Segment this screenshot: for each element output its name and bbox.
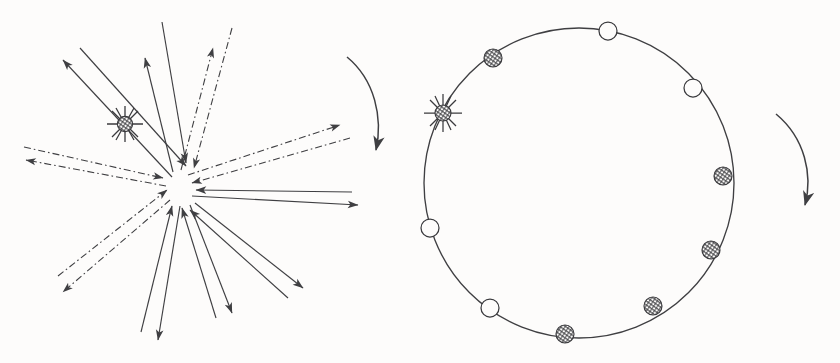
ring-circle [424, 28, 734, 338]
arrow-outward-0 [63, 60, 172, 177]
marker-open-circle-3 [421, 219, 439, 237]
marker-hatched-circle-8 [714, 167, 732, 185]
marker-hatched-circle-6 [644, 297, 662, 315]
rotation-arrow-left [347, 57, 378, 150]
arrow-outward-5 [195, 203, 303, 288]
marker-hatched-circle-7 [702, 241, 720, 259]
arrow-outward-3 [188, 125, 340, 175]
arrow-inward-0 [80, 48, 186, 166]
star-core-hatched [117, 116, 132, 131]
marker-open-circle-4 [481, 299, 499, 317]
arrow-outward-7 [158, 206, 180, 340]
arrow-pair-8 [58, 190, 170, 292]
arrow-inward-8 [58, 190, 167, 276]
figure-canvas [0, 0, 840, 363]
arrow-pair-3 [188, 125, 350, 183]
figure-root [0, 0, 840, 363]
arrow-inward-7 [141, 206, 172, 332]
arrow-pair-9 [24, 147, 166, 186]
arrow-outward-6 [190, 205, 232, 313]
star-core-hatched [435, 105, 451, 121]
arrow-outward-1 [145, 58, 173, 172]
star-marker-left-panel [107, 106, 143, 142]
arrow-inward-3 [192, 138, 350, 183]
marker-open-circle-0 [599, 22, 617, 40]
arrow-pair-4 [192, 190, 358, 205]
arrow-outward-2 [181, 48, 213, 170]
right-panel-circle-ring [421, 22, 808, 343]
arrow-pair-2 [181, 28, 232, 170]
marker-hatched-circle-1 [484, 49, 502, 67]
arrow-outward-4 [192, 196, 358, 205]
marker-hatched-circle-5 [556, 325, 574, 343]
arrow-pair-6 [182, 205, 232, 318]
arrow-inward-6 [182, 208, 216, 318]
arrow-inward-5 [190, 210, 288, 298]
marker-star-2 [424, 94, 462, 132]
marker-open-circle-9 [684, 79, 702, 97]
arrow-pair-7 [141, 206, 180, 340]
arrow-pair-5 [190, 203, 303, 298]
arrow-pair-1 [145, 22, 186, 172]
left-panel-radial-burst [24, 22, 378, 340]
arrow-inward-4 [196, 190, 352, 192]
arrow-outward-9 [26, 160, 166, 186]
arrow-inward-9 [24, 147, 163, 178]
rotation-arrow-right [776, 114, 808, 205]
